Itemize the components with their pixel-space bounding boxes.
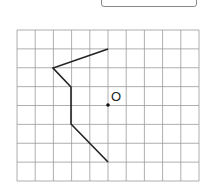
center-label: O [111, 89, 121, 104]
center-point-o [106, 103, 110, 107]
grid-diagram: O [0, 0, 209, 193]
